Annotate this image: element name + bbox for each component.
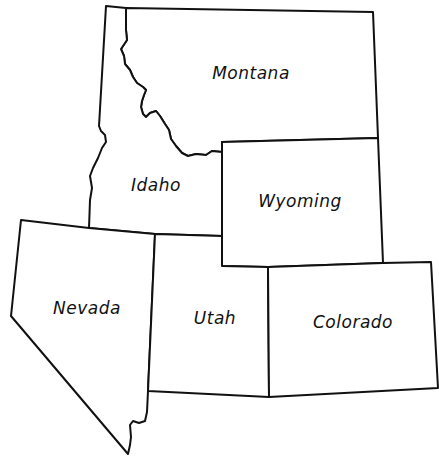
label-colorado: Colorado bbox=[313, 312, 393, 332]
western-states-map: Montana Idaho Wyoming Nevada Utah Colora… bbox=[0, 0, 439, 459]
state-nevada[interactable] bbox=[11, 220, 155, 454]
label-montana: Montana bbox=[212, 63, 290, 83]
label-nevada: Nevada bbox=[53, 298, 121, 318]
label-wyoming: Wyoming bbox=[258, 191, 342, 211]
label-idaho: Idaho bbox=[131, 175, 181, 195]
label-utah: Utah bbox=[194, 308, 236, 328]
